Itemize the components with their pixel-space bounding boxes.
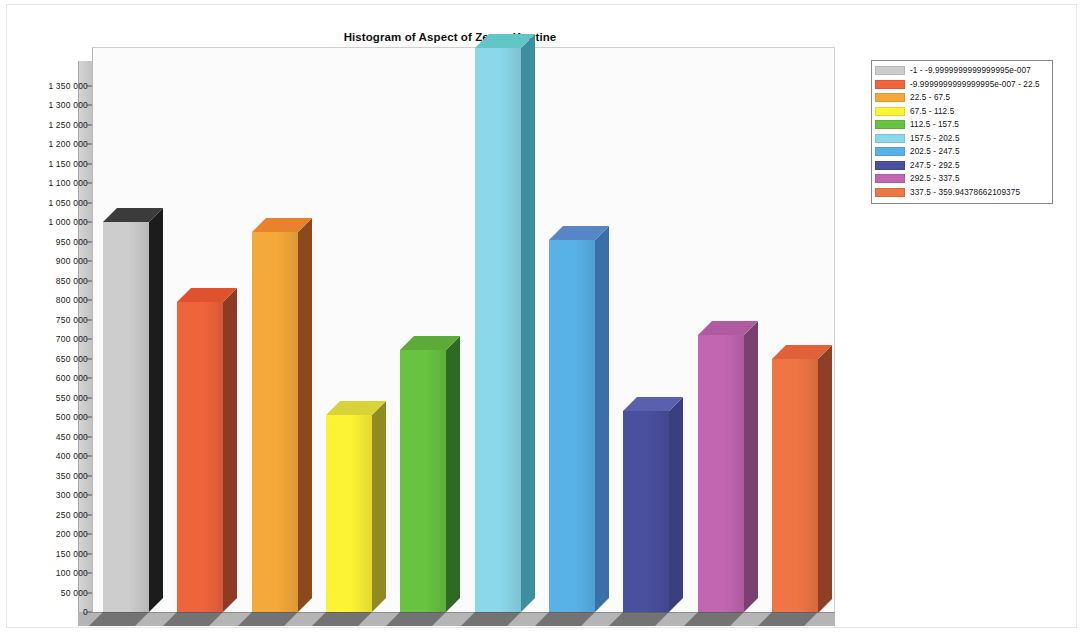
chart-bar	[326, 415, 372, 612]
y-axis-tick-mark	[86, 456, 92, 457]
chart-bar	[400, 350, 446, 612]
y-axis-tick-label: 550 000	[56, 393, 88, 403]
y-axis-tick-mark	[86, 124, 92, 125]
chart-bar	[177, 302, 223, 612]
bar-side-face	[149, 208, 163, 612]
y-axis-tick-mark	[86, 573, 92, 574]
bar-front-face	[772, 359, 818, 613]
bar-front-face	[475, 48, 521, 612]
y-axis-tick-mark	[86, 358, 92, 359]
chart-bar	[772, 359, 818, 613]
bar-front-face	[549, 240, 595, 612]
y-axis-tick-mark	[86, 553, 92, 554]
legend-color-swatch	[875, 134, 905, 143]
y-axis-tick-label: 200 000	[56, 529, 88, 539]
chart-legend: -1 - -9.9999999999999995e-007-9.99999999…	[871, 60, 1053, 204]
legend-color-swatch	[875, 174, 905, 183]
legend-label: 292.5 - 337.5	[910, 174, 960, 183]
legend-row: 112.5 - 157.5	[875, 118, 1049, 131]
y-axis-tick-label: 950 000	[56, 237, 88, 247]
y-axis-tick-label: 650 000	[56, 354, 88, 364]
bar-front-face	[177, 302, 223, 612]
y-axis-tick-mark	[86, 514, 92, 515]
legend-color-swatch	[875, 107, 905, 116]
chart-plot-wrapper: 050 000100 000150 000200 000250 000300 0…	[0, 0, 870, 632]
y-axis-tick-mark	[86, 592, 92, 593]
y-axis-tick-mark	[86, 163, 92, 164]
legend-row: -9.9999999999999995e-007 - 22.5	[875, 78, 1049, 91]
y-axis-tick-label: 1 200 000	[48, 139, 88, 149]
legend-label: 157.5 - 202.5	[910, 134, 960, 143]
y-axis-tick-label: 750 000	[56, 315, 88, 325]
legend-row: 157.5 - 202.5	[875, 132, 1049, 145]
legend-color-swatch	[875, 93, 905, 102]
y-axis-tick-label: 600 000	[56, 373, 88, 383]
bar-front-face	[623, 411, 669, 612]
legend-label: 337.5 - 359.94378662109375	[910, 188, 1020, 197]
legend-row: -1 - -9.9999999999999995e-007	[875, 64, 1049, 77]
y-axis-tick-mark	[86, 534, 92, 535]
y-axis-tick-label: 900 000	[56, 256, 88, 266]
y-axis-tick-label: 1 100 000	[48, 178, 88, 188]
y-axis-tick-mark	[86, 144, 92, 145]
legend-label: 247.5 - 292.5	[910, 161, 960, 170]
bar-front-face	[698, 335, 744, 612]
legend-row: 247.5 - 292.5	[875, 159, 1049, 172]
y-axis-tick-label: 1 050 000	[48, 198, 88, 208]
legend-label: -9.9999999999999995e-007 - 22.5	[910, 80, 1040, 89]
y-axis-tick-label: 1 150 000	[48, 159, 88, 169]
y-axis-tick-mark	[86, 202, 92, 203]
y-axis-tick-label: 250 000	[56, 510, 88, 520]
bar-side-face	[521, 34, 535, 612]
y-axis-tick-label: 1 250 000	[48, 120, 88, 130]
y-axis-tick-mark	[86, 436, 92, 437]
legend-color-swatch	[875, 161, 905, 170]
y-axis-tick-label: 400 000	[56, 451, 88, 461]
y-axis-tick-mark	[86, 495, 92, 496]
legend-color-swatch	[875, 147, 905, 156]
y-axis-tick-label: 850 000	[56, 276, 88, 286]
y-axis-tick-mark	[86, 397, 92, 398]
legend-row: 67.5 - 112.5	[875, 105, 1049, 118]
legend-label: 67.5 - 112.5	[910, 107, 954, 116]
y-axis-tick-mark	[86, 475, 92, 476]
y-axis-tick-label: 800 000	[56, 295, 88, 305]
y-axis-tick-label: 1 000 000	[48, 217, 88, 227]
y-axis-tick-mark	[86, 612, 92, 613]
legend-color-swatch	[875, 66, 905, 75]
legend-row: 22.5 - 67.5	[875, 91, 1049, 104]
y-axis-tick-mark	[86, 222, 92, 223]
bar-side-face	[669, 397, 683, 612]
legend-label: 22.5 - 67.5	[910, 93, 950, 102]
bar-side-face	[372, 401, 386, 612]
legend-label: 202.5 - 247.5	[910, 147, 960, 156]
y-axis-tick-mark	[86, 85, 92, 86]
y-axis-tick-label: 350 000	[56, 471, 88, 481]
y-axis-tick-mark	[86, 300, 92, 301]
bar-side-face	[223, 288, 237, 612]
legend-label: 112.5 - 157.5	[910, 120, 959, 129]
chart-bar	[698, 335, 744, 612]
y-axis-tick-label: 500 000	[56, 412, 88, 422]
legend-row: 202.5 - 247.5	[875, 145, 1049, 158]
chart-bar	[103, 222, 149, 612]
y-axis-tick-mark	[86, 241, 92, 242]
y-axis-tick-mark	[86, 319, 92, 320]
y-axis: 050 000100 000150 000200 000250 000300 0…	[0, 0, 92, 632]
y-axis-tick-label: 300 000	[56, 490, 88, 500]
y-axis-tick-label: 450 000	[56, 432, 88, 442]
y-axis-tick-label: 50 000	[61, 588, 88, 598]
bar-side-face	[446, 336, 460, 612]
screenshot-page: Histogram of Aspect of Zeuss-Koutine 050…	[0, 0, 1083, 632]
legend-row: 337.5 - 359.94378662109375	[875, 186, 1049, 199]
chart-bar	[252, 232, 298, 612]
bar-side-face	[818, 345, 832, 613]
y-axis-tick-mark	[86, 105, 92, 106]
bar-front-face	[326, 415, 372, 612]
y-axis-tick-label: 100 000	[56, 568, 88, 578]
y-axis-tick-label: 150 000	[56, 549, 88, 559]
chart-bar	[475, 48, 521, 612]
y-axis-tick-mark	[86, 417, 92, 418]
y-axis-tick-mark	[86, 339, 92, 340]
bar-side-face	[744, 321, 758, 612]
